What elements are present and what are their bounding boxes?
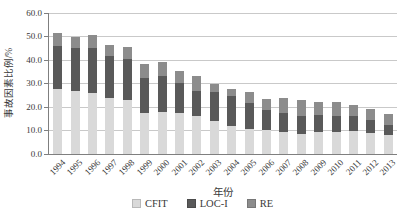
bar-segment-cfit-2001 bbox=[175, 113, 184, 154]
bar-segment-cfit-2008 bbox=[297, 134, 306, 154]
bar-group-2013 bbox=[384, 114, 393, 154]
bar-group-1996 bbox=[88, 35, 97, 154]
gridline bbox=[49, 83, 397, 84]
gridline bbox=[49, 13, 397, 14]
bar-segment-re-1999 bbox=[140, 64, 149, 78]
bar-segment-cfit-2002 bbox=[192, 116, 201, 154]
x-axis-line bbox=[48, 154, 397, 155]
gridline bbox=[49, 60, 397, 61]
bar-segment-loc-i-2000 bbox=[158, 76, 167, 111]
bar-segment-cfit-1999 bbox=[140, 113, 149, 154]
bar-segment-loc-i-1997 bbox=[105, 56, 114, 97]
bar-segment-re-2013 bbox=[384, 114, 393, 125]
y-tick-label: 10.0 bbox=[12, 126, 42, 135]
bar-segment-loc-i-1994 bbox=[53, 46, 62, 89]
bar-group-2001 bbox=[175, 71, 184, 154]
bar-segment-loc-i-2012 bbox=[366, 120, 375, 132]
bar-segment-cfit-1995 bbox=[71, 91, 80, 154]
bar-group-1997 bbox=[105, 45, 114, 154]
y-tick-mark bbox=[44, 60, 48, 61]
bar-segment-re-2002 bbox=[192, 76, 201, 90]
bar-segment-loc-i-2006 bbox=[262, 110, 271, 130]
bar-group-2002 bbox=[192, 76, 201, 154]
bar-segment-cfit-2004 bbox=[227, 126, 236, 154]
y-tick-mark bbox=[44, 83, 48, 84]
y-tick-mark bbox=[44, 130, 48, 131]
bar-group-1998 bbox=[123, 47, 132, 154]
bar-group-2000 bbox=[158, 62, 167, 154]
bar-segment-loc-i-2013 bbox=[384, 125, 393, 136]
bar-segment-cfit-1998 bbox=[123, 100, 132, 154]
bar-group-2010 bbox=[332, 102, 341, 154]
y-tick-mark bbox=[44, 36, 48, 37]
y-tick-label: 40.0 bbox=[12, 56, 42, 65]
bar-group-1999 bbox=[140, 64, 149, 154]
bar-segment-re-2005 bbox=[245, 92, 254, 103]
gridline bbox=[49, 107, 397, 108]
bar-segment-re-2004 bbox=[227, 89, 236, 96]
bar-group-2006 bbox=[262, 99, 271, 154]
bar-segment-cfit-2003 bbox=[210, 121, 219, 154]
gridline bbox=[49, 36, 397, 37]
bar-group-2008 bbox=[297, 100, 306, 154]
bar-segment-cfit-2005 bbox=[245, 129, 254, 154]
y-tick-mark bbox=[44, 107, 48, 108]
y-tick-mark bbox=[44, 13, 48, 14]
bar-segment-cfit-2013 bbox=[384, 135, 393, 154]
y-tick-label: 0.0 bbox=[12, 150, 42, 159]
bar-segment-cfit-2007 bbox=[279, 132, 288, 154]
bar-segment-re-2000 bbox=[158, 62, 167, 76]
y-tick-label: 30.0 bbox=[12, 79, 42, 88]
bar-segment-re-1996 bbox=[88, 35, 97, 48]
bar-group-2007 bbox=[279, 98, 288, 154]
bar-segment-re-2012 bbox=[366, 109, 375, 120]
bar-segment-re-2010 bbox=[332, 102, 341, 116]
bar-segment-cfit-2006 bbox=[262, 130, 271, 154]
bar-segment-re-2003 bbox=[210, 84, 219, 92]
bar-segment-loc-i-2009 bbox=[314, 115, 323, 131]
bar-group-2004 bbox=[227, 89, 236, 154]
stacked-bar-chart: 事故因素比例/% 年份 CFITLOC-IRE 0.010.020.030.04… bbox=[0, 0, 405, 224]
bar-segment-loc-i-2001 bbox=[175, 83, 184, 114]
bar-segment-re-1998 bbox=[123, 47, 132, 59]
bar-group-1995 bbox=[71, 37, 80, 155]
bar-segment-re-2011 bbox=[349, 105, 358, 117]
bar-segment-loc-i-1995 bbox=[71, 48, 80, 90]
bar-group-1994 bbox=[53, 33, 62, 154]
bar-segment-loc-i-1999 bbox=[140, 78, 149, 113]
bar-segment-loc-i-2007 bbox=[279, 113, 288, 132]
bar-segment-re-2001 bbox=[175, 71, 184, 83]
bar-segment-re-1997 bbox=[105, 45, 114, 57]
gridline bbox=[49, 130, 397, 131]
bar-segment-loc-i-1996 bbox=[88, 48, 97, 93]
bar-segment-loc-i-2008 bbox=[297, 116, 306, 134]
bar-group-2012 bbox=[366, 109, 375, 154]
bar-segment-loc-i-2003 bbox=[210, 92, 219, 121]
bar-segment-loc-i-2005 bbox=[245, 103, 254, 129]
y-tick-label: 20.0 bbox=[12, 103, 42, 112]
bar-segment-loc-i-2002 bbox=[192, 91, 201, 117]
bar-segment-loc-i-2011 bbox=[349, 116, 358, 131]
bar-segment-loc-i-2010 bbox=[332, 116, 341, 131]
bar-segment-re-2009 bbox=[314, 102, 323, 116]
y-tick-label: 60.0 bbox=[12, 9, 42, 18]
bar-segment-cfit-1996 bbox=[88, 93, 97, 154]
bar-group-2005 bbox=[245, 92, 254, 154]
y-tick-mark bbox=[44, 154, 48, 155]
bar-segment-cfit-1994 bbox=[53, 89, 62, 154]
bar-segment-re-2007 bbox=[279, 98, 288, 114]
bar-group-2011 bbox=[349, 105, 358, 154]
bar-segment-re-2006 bbox=[262, 99, 271, 110]
bar-group-2009 bbox=[314, 102, 323, 154]
bar-segment-cfit-2012 bbox=[366, 133, 375, 154]
y-tick-label: 50.0 bbox=[12, 32, 42, 41]
bar-segment-re-2008 bbox=[297, 100, 306, 116]
bar-segment-cfit-2011 bbox=[349, 131, 358, 154]
bar-segment-re-1995 bbox=[71, 37, 80, 49]
bar-segment-cfit-2000 bbox=[158, 112, 167, 154]
bar-segment-re-1994 bbox=[53, 33, 62, 46]
bar-group-2003 bbox=[210, 84, 219, 155]
bar-segment-loc-i-2004 bbox=[227, 96, 236, 126]
bar-segment-loc-i-1998 bbox=[123, 59, 132, 100]
bar-segment-cfit-1997 bbox=[105, 98, 114, 154]
